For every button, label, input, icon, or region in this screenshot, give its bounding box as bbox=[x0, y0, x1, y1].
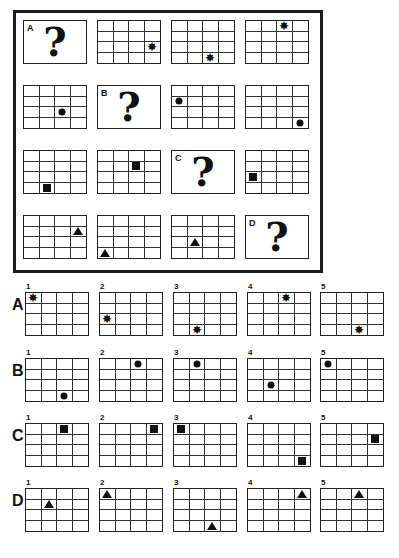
option-number: 5 bbox=[321, 478, 325, 487]
answer-option-d4[interactable] bbox=[247, 488, 311, 532]
grid-square bbox=[277, 53, 293, 64]
answer-option-a2[interactable]: ✸ bbox=[99, 292, 163, 336]
answer-option-c2[interactable] bbox=[99, 423, 163, 467]
triangle-icon bbox=[207, 522, 217, 530]
grid-square bbox=[129, 172, 145, 183]
star-icon: ✸ bbox=[279, 20, 289, 32]
grid-square bbox=[221, 370, 237, 381]
grid-square bbox=[24, 107, 40, 118]
grid-square bbox=[219, 97, 235, 108]
square-icon bbox=[371, 435, 379, 443]
grid-square bbox=[352, 424, 368, 435]
grid-square bbox=[262, 42, 278, 53]
grid-square bbox=[57, 456, 73, 467]
grid-square bbox=[100, 500, 116, 511]
answer-option-b1[interactable] bbox=[25, 358, 89, 402]
grid-square bbox=[98, 172, 114, 183]
grid-square bbox=[116, 521, 132, 532]
grid-square bbox=[42, 391, 58, 402]
answer-option-b2[interactable] bbox=[99, 358, 163, 402]
grid-square bbox=[248, 435, 264, 446]
grid-square: ✸ bbox=[26, 293, 42, 304]
grid-square bbox=[352, 500, 368, 511]
grid-square bbox=[42, 424, 58, 435]
grid-square bbox=[190, 424, 206, 435]
grid-square bbox=[147, 435, 163, 446]
grid-square bbox=[352, 304, 368, 315]
grid-square bbox=[190, 456, 206, 467]
option-number: 4 bbox=[248, 413, 252, 422]
square-icon bbox=[249, 173, 257, 181]
grid-square bbox=[145, 227, 161, 238]
grid-square bbox=[24, 248, 40, 259]
missing-cell-c: C? bbox=[171, 150, 235, 194]
grid-square bbox=[131, 314, 147, 325]
grid-square bbox=[205, 391, 221, 402]
grid-square bbox=[262, 32, 278, 43]
grid-square bbox=[116, 424, 132, 435]
answer-option-a4[interactable]: ✸ bbox=[247, 292, 311, 336]
grid-square bbox=[73, 391, 89, 402]
answer-option-d3[interactable] bbox=[173, 488, 237, 532]
question-mark-icon: ? bbox=[246, 214, 308, 260]
dot-icon bbox=[61, 392, 68, 399]
answer-option-c4[interactable] bbox=[247, 423, 311, 467]
answer-option-d2[interactable] bbox=[99, 488, 163, 532]
grid-square bbox=[205, 359, 221, 370]
grid-square bbox=[248, 304, 264, 315]
grid-square bbox=[24, 227, 40, 238]
grid-square bbox=[368, 500, 384, 511]
grid-square bbox=[147, 456, 163, 467]
grid-square bbox=[73, 424, 89, 435]
grid-square bbox=[145, 183, 161, 194]
grid-square bbox=[264, 293, 280, 304]
answer-option-a5[interactable]: ✸ bbox=[320, 292, 384, 336]
grid-square bbox=[295, 380, 311, 391]
grid-square bbox=[188, 248, 204, 259]
option-number: 2 bbox=[100, 348, 104, 357]
answer-option-b5[interactable] bbox=[320, 358, 384, 402]
answer-option-c1[interactable] bbox=[25, 423, 89, 467]
answer-option-c5[interactable] bbox=[320, 423, 384, 467]
answer-option-a1[interactable]: ✸ bbox=[25, 292, 89, 336]
grid-square bbox=[295, 521, 311, 532]
grid-square bbox=[205, 489, 221, 500]
grid-square bbox=[264, 424, 280, 435]
grid-square bbox=[114, 216, 130, 227]
answer-option-d1[interactable] bbox=[25, 488, 89, 532]
grid-square bbox=[71, 151, 87, 162]
grid-square bbox=[55, 86, 71, 97]
grid-square bbox=[40, 107, 56, 118]
grid-square bbox=[190, 380, 206, 391]
grid-square bbox=[145, 53, 161, 64]
grid-square bbox=[73, 435, 89, 446]
grid-square bbox=[73, 500, 89, 511]
option-number: 1 bbox=[26, 282, 30, 291]
answer-option-c3[interactable] bbox=[173, 423, 237, 467]
grid-square bbox=[57, 304, 73, 315]
grid-square bbox=[145, 216, 161, 227]
grid-square bbox=[337, 314, 353, 325]
grid-square bbox=[262, 53, 278, 64]
grid-square bbox=[277, 162, 293, 173]
answer-option-d5[interactable] bbox=[320, 488, 384, 532]
answer-row-label-c: C bbox=[12, 427, 24, 445]
grid-square bbox=[26, 424, 42, 435]
grid-square bbox=[71, 86, 87, 97]
grid-square bbox=[321, 456, 337, 467]
grid-square bbox=[57, 314, 73, 325]
grid-square bbox=[100, 391, 116, 402]
triangle-icon bbox=[354, 490, 364, 498]
grid-square bbox=[264, 304, 280, 315]
grid-square bbox=[98, 237, 114, 248]
grid-square bbox=[352, 380, 368, 391]
grid-square bbox=[368, 370, 384, 381]
answer-option-a3[interactable]: ✸ bbox=[173, 292, 237, 336]
grid-square bbox=[279, 391, 295, 402]
grid-square bbox=[248, 293, 264, 304]
grid-square bbox=[129, 162, 145, 173]
grid-square bbox=[55, 227, 71, 238]
answer-option-b3[interactable] bbox=[173, 358, 237, 402]
grid-square bbox=[147, 500, 163, 511]
answer-option-b4[interactable] bbox=[247, 358, 311, 402]
